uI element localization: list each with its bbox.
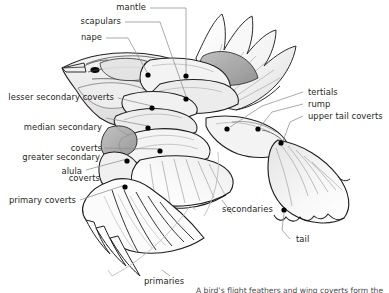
label-tertials: tertials <box>308 87 338 97</box>
label-secondaries: secondaries <box>222 204 273 214</box>
marker-alula <box>124 158 129 163</box>
marker-primary-coverts <box>122 184 127 189</box>
tail-feathers <box>268 140 350 223</box>
label-upper-tail-coverts: upper tail coverts <box>308 111 383 121</box>
marker-tail <box>281 207 286 212</box>
label-greater-secondary-coverts-line1: greater secondary <box>22 152 100 162</box>
label-primaries: primaries <box>144 276 184 286</box>
label-tail: tail <box>296 234 309 244</box>
leader-upper-tail-coverts <box>283 116 303 141</box>
marker-scapulars <box>183 96 188 101</box>
label-median-secondary-coverts-line1: median secondary <box>24 122 102 132</box>
leader-rump <box>260 104 303 127</box>
label-rump: rump <box>308 99 330 109</box>
label-nape: nape <box>30 32 102 42</box>
marker-greater-secondary-coverts <box>157 148 162 153</box>
caption-clipped: A bird’s flight feathers and wing covert… <box>196 286 386 293</box>
label-alula: alula <box>0 166 82 176</box>
marker-upper-tail-coverts <box>278 140 283 145</box>
marker-rump <box>255 126 260 131</box>
marker-lesser-secondary-coverts <box>149 105 154 110</box>
label-lesser-secondary-coverts: lesser secondary coverts <box>0 92 114 102</box>
bird-topography-figure: mantle scapulars nape lesser secondary c… <box>0 0 389 293</box>
marker-nape <box>145 72 150 77</box>
marker-median-secondary-coverts <box>145 125 150 130</box>
label-mantle: mantle <box>68 2 146 12</box>
label-scapulars: scapulars <box>43 16 121 26</box>
marker-mantle <box>183 73 188 78</box>
label-primary-coverts: primary coverts <box>0 195 76 205</box>
marker-tertials <box>224 126 229 131</box>
